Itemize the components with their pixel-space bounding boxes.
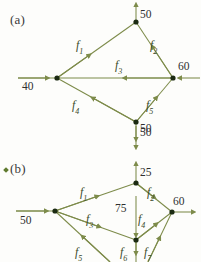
flow-sub: 5 bbox=[78, 254, 82, 262]
external-supply-left-b: 50 bbox=[20, 214, 32, 226]
node-a-right bbox=[170, 75, 175, 80]
flow-sub: 1 bbox=[83, 194, 87, 203]
flow-label-a-f5: f5 bbox=[146, 98, 153, 114]
flow-label-a-f4: f4 bbox=[72, 98, 79, 114]
node-b-top bbox=[133, 180, 138, 185]
flow-sub: 4 bbox=[75, 107, 79, 116]
flow-sub: 1 bbox=[79, 47, 83, 56]
external-flow-middle-b: 75 bbox=[115, 202, 127, 214]
external-supply-top-inner-b: 25 bbox=[140, 166, 152, 178]
flow-label-a-f2: f2 bbox=[150, 38, 157, 54]
node-b-left bbox=[52, 208, 57, 213]
node-b-middle bbox=[133, 237, 138, 242]
flow-label-a-f1: f1 bbox=[76, 38, 83, 54]
panel-label-b: (b) bbox=[10, 161, 26, 177]
flow-label-a-f3: f3 bbox=[115, 58, 122, 74]
external-supply-left-a: 40 bbox=[22, 80, 34, 92]
panel-b-nodes bbox=[52, 180, 174, 242]
flow-label-b-f7: f7 bbox=[144, 245, 151, 261]
edge-b-f1-head bbox=[55, 196, 98, 211]
node-b-right bbox=[169, 209, 174, 214]
flow-label-b-f5: f5 bbox=[75, 245, 82, 261]
flow-sub: 5 bbox=[149, 107, 153, 116]
node-a-left bbox=[54, 75, 59, 80]
edge-a-f4-head bbox=[92, 98, 136, 123]
flow-sub: 7 bbox=[147, 254, 151, 262]
flow-label-b-f1: f1 bbox=[80, 185, 87, 201]
panel-b-edges bbox=[16, 126, 194, 262]
network-flow-figure: (a) 50 40 60 50 f1 f2 f3 f4 f5 (b) 50 25… bbox=[0, 0, 201, 262]
flow-sub: 4 bbox=[141, 221, 145, 230]
node-a-top bbox=[133, 19, 138, 24]
node-a-bottom bbox=[133, 119, 138, 124]
flow-sub: 6 bbox=[123, 254, 127, 262]
flow-sub: 3 bbox=[89, 221, 93, 230]
edge-b-f5-head bbox=[82, 236, 110, 262]
flow-label-b-f2: f2 bbox=[147, 185, 154, 201]
flow-label-b-f6: f6 bbox=[120, 245, 127, 261]
flow-sub: 2 bbox=[150, 194, 154, 203]
external-supply-top-a: 50 bbox=[140, 8, 152, 20]
flow-label-b-f3: f3 bbox=[86, 212, 93, 228]
flow-sub: 3 bbox=[118, 67, 122, 76]
panel-a-edges bbox=[18, 4, 200, 140]
flow-label-b-f4: f4 bbox=[138, 212, 145, 228]
external-demand-right-a: 60 bbox=[178, 60, 190, 72]
external-demand-top-outer-b: 50 bbox=[140, 126, 152, 138]
flow-sub: 2 bbox=[153, 47, 157, 56]
panel-label-a: (a) bbox=[10, 12, 25, 28]
external-demand-right-b: 60 bbox=[173, 195, 185, 207]
edge-a-f1-head bbox=[57, 55, 90, 78]
